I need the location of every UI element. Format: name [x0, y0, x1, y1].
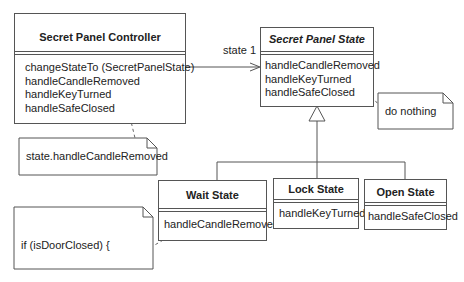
class-lock-state: Lock State handleKeyTurned — [273, 178, 359, 229]
attribute-separator — [365, 202, 446, 206]
operations-list: handleCandleRemoved handleKeyTurned hand… — [265, 59, 380, 100]
controller-note-text: state.handleCandleRemoved — [26, 150, 168, 164]
generalization-triangle-icon — [309, 106, 325, 121]
operation: handleCandleRemoved — [265, 59, 380, 73]
wait-note-text: if (isDoorClosed) { revealLock() changeS… — [21, 212, 163, 282]
operation: handleCandleRemoved — [164, 218, 279, 232]
attribute-separator — [261, 51, 373, 55]
attribute-separator — [15, 51, 185, 55]
operation: handleSafeClosed — [265, 86, 380, 100]
association-label: state 1 — [223, 44, 256, 56]
state-note-text: do nothing — [385, 105, 436, 119]
class-title: Wait State — [159, 189, 266, 201]
operations-list: handleKeyTurned — [279, 207, 365, 221]
note-line: if (isDoorClosed) { — [21, 239, 163, 253]
class-open-state: Open State handleSafeClosed — [364, 179, 447, 230]
class-title: Secret Panel State — [261, 33, 373, 45]
operation: changeStateTo (SecretPanelState) — [25, 61, 194, 75]
class-wait-state: Wait State handleCandleRemoved — [158, 180, 267, 241]
operations-list: handleSafeClosed — [368, 210, 458, 224]
class-secret-panel-controller: Secret Panel Controller changeStateTo (S… — [14, 13, 186, 124]
operation: handleKeyTurned — [25, 88, 194, 102]
operation: handleSafeClosed — [368, 210, 458, 224]
operation: handleKeyTurned — [279, 207, 365, 221]
attribute-separator — [159, 208, 266, 212]
operation: handleCandleRemoved — [25, 75, 194, 89]
class-title: Open State — [365, 186, 446, 198]
class-title: Secret Panel Controller — [15, 31, 185, 43]
operations-list: handleCandleRemoved — [164, 218, 279, 232]
operations-list: changeStateTo (SecretPanelState) handleC… — [25, 61, 194, 115]
operation: handleSafeClosed — [25, 102, 194, 116]
class-title: Lock State — [274, 183, 358, 195]
class-secret-panel-state: Secret Panel State handleCandleRemoved h… — [260, 27, 374, 107]
operation: handleKeyTurned — [265, 73, 380, 87]
attribute-separator — [274, 199, 358, 203]
